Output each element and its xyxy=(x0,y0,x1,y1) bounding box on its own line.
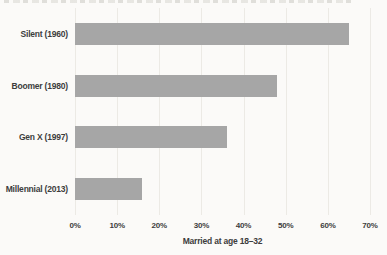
x-tick-label: 60% xyxy=(320,221,335,230)
x-tick-label: 20% xyxy=(152,221,167,230)
category-label: Silent (1960) xyxy=(0,29,68,39)
gridline xyxy=(370,8,371,215)
bar-chart: Silent (1960)Boomer (1980)Gen X (1997)Mi… xyxy=(0,0,387,255)
category-label: Boomer (1980) xyxy=(0,81,68,91)
x-tick-label: 70% xyxy=(362,221,377,230)
x-axis-title: Married at age 18–32 xyxy=(75,236,370,246)
bar xyxy=(75,178,142,200)
bar xyxy=(75,23,349,45)
x-axis-ticks: 0%10%20%30%40%50%60%70% xyxy=(75,221,370,231)
bar-row: Boomer (1980) xyxy=(75,60,370,112)
x-tick-label: 30% xyxy=(194,221,209,230)
bar-rows: Silent (1960)Boomer (1980)Gen X (1997)Mi… xyxy=(75,8,370,215)
bar xyxy=(75,75,277,97)
bar xyxy=(75,126,227,148)
x-tick-label: 40% xyxy=(236,221,251,230)
x-tick-label: 0% xyxy=(69,221,80,230)
category-label: Gen X (1997) xyxy=(0,132,68,142)
x-tick-label: 50% xyxy=(278,221,293,230)
bar-row: Gen X (1997) xyxy=(75,112,370,164)
category-label: Millennial (2013) xyxy=(0,184,68,194)
bar-row: Millennial (2013) xyxy=(75,163,370,215)
x-tick-label: 10% xyxy=(109,221,124,230)
bar-row: Silent (1960) xyxy=(75,8,370,60)
plot-area: Silent (1960)Boomer (1980)Gen X (1997)Mi… xyxy=(75,8,370,215)
cropped-text-remnant xyxy=(4,0,354,3)
